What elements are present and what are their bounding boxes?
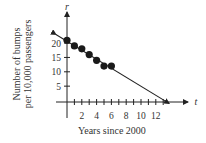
x-tick-label: 10 bbox=[136, 111, 146, 121]
data-point bbox=[86, 51, 93, 58]
data-point bbox=[100, 62, 107, 69]
data-points bbox=[63, 37, 115, 70]
x-tick-label: 2 bbox=[79, 111, 84, 121]
y-tick-label: 15 bbox=[52, 53, 62, 63]
x-tick-label: 12 bbox=[151, 111, 161, 121]
x-tick-label: 6 bbox=[109, 111, 114, 121]
data-point bbox=[71, 42, 78, 49]
y-tick-label: 10 bbox=[52, 67, 62, 77]
x-axis-var: t bbox=[195, 96, 198, 107]
chart-canvas: 5101520 24681012 r t bbox=[0, 0, 206, 143]
y-tick-label: 20 bbox=[52, 39, 62, 49]
axes bbox=[56, 12, 188, 118]
data-point bbox=[63, 37, 70, 44]
x-tick-label: 8 bbox=[124, 111, 129, 121]
data-point bbox=[93, 57, 100, 64]
x-tick-label: 4 bbox=[94, 111, 99, 121]
y-axis-var: r bbox=[65, 1, 69, 12]
data-point bbox=[78, 45, 85, 52]
y-tick-label: 5 bbox=[56, 82, 61, 92]
data-point bbox=[108, 62, 115, 69]
x-axis-label: Years since 2000 bbox=[78, 125, 146, 136]
